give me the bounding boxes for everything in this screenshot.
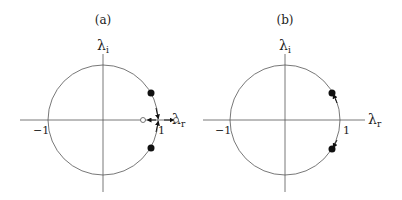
eigenvalue-dot-lower [148, 145, 155, 152]
panel-b: (b) λi λr −1 1 [203, 13, 382, 192]
real-axis-label: λr [368, 111, 382, 129]
arrow-up-icon [334, 96, 337, 103]
eigenvalue-dot-upper [329, 90, 336, 97]
imag-axis-label: λi [97, 37, 109, 55]
panel-a: (a) λi λr −1 1 [20, 13, 186, 192]
tick-one: 1 [158, 124, 165, 137]
eigenvalue-dot-lower [329, 146, 336, 153]
eigenvalue-diagram: (a) λi λr −1 1 (b) λi λr −1 1 [0, 0, 402, 200]
tick-one: 1 [343, 124, 350, 137]
panel-a-title: (a) [95, 13, 112, 27]
imag-axis-label: λi [279, 37, 291, 55]
tick-neg-one: −1 [33, 124, 49, 137]
real-eigenvalue-right [174, 118, 179, 123]
real-eigenvalue-left [141, 118, 146, 123]
panel-b-title: (b) [276, 13, 293, 27]
eigenvalue-dot-upper [148, 90, 155, 97]
tick-neg-one: −1 [215, 124, 231, 137]
